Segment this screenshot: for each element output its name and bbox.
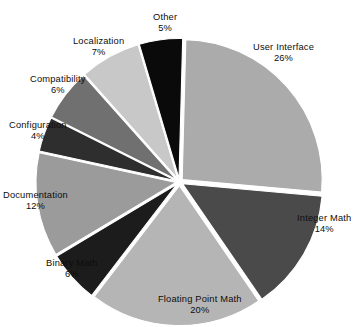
pie-label-percent: 7% — [73, 47, 124, 58]
pie-label-name: Documentation — [3, 190, 68, 201]
pie-label-name: User Interface — [253, 42, 314, 53]
pie-label-floating-point-math: Floating Point Math 20% — [158, 294, 242, 316]
pie-label-percent: 6% — [46, 269, 98, 280]
pie-label-compatibility: Compatibility 6% — [30, 74, 86, 96]
pie-label-percent: 26% — [253, 53, 314, 64]
pie-label-documentation: Documentation 12% — [3, 190, 68, 212]
pie-label-percent: 6% — [30, 85, 86, 96]
pie-label-percent: 12% — [3, 201, 68, 212]
pie-label-configuration: Configuration 4% — [9, 120, 67, 142]
pie-label-binary-math: Binary Math 6% — [46, 258, 98, 280]
pie-label-name: Floating Point Math — [158, 294, 242, 305]
pie-label-percent: 20% — [158, 305, 242, 316]
pie-label-name: Binary Math — [46, 258, 98, 269]
pie-label-name: Compatibility — [30, 74, 86, 85]
pie-label-other: Other 5% — [153, 12, 177, 34]
pie-label-localization: Localization 7% — [73, 36, 124, 58]
pie-label-user-interface: User Interface 26% — [253, 42, 314, 64]
pie-label-name: Other — [153, 12, 177, 23]
pie-label-integer-math: Integer Math 14% — [297, 213, 351, 235]
pie-label-name: Configuration — [9, 120, 67, 131]
pie-label-name: Localization — [73, 36, 124, 47]
pie-label-name: Integer Math — [297, 213, 351, 224]
pie-label-percent: 5% — [153, 23, 177, 34]
pie-label-percent: 4% — [9, 131, 67, 142]
pie-chart: User Interface 26% Integer Math 14% Floa… — [0, 0, 359, 327]
pie-label-percent: 14% — [297, 224, 351, 235]
